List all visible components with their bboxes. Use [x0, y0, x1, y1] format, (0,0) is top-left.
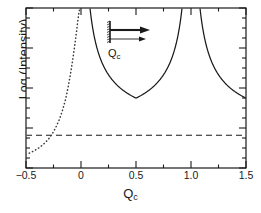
x-tick-label: 0	[78, 169, 84, 181]
x-tick-label: −0.5	[16, 169, 37, 181]
x-tick-label: 0.5	[129, 169, 144, 181]
x-axis-label-base: Q	[123, 186, 133, 201]
axes-frame	[26, 8, 246, 168]
inset-qc-sub: c	[117, 52, 121, 61]
inset-qc-label: Qc	[108, 47, 121, 61]
x-tick-labels: −0.500.51.01.5	[0, 169, 261, 185]
x-axis-label: Qc	[0, 186, 261, 202]
x-axis-label-sub: c	[133, 192, 138, 202]
x-tick-label: 1.0	[184, 169, 199, 181]
x-tick-label: 1.5	[239, 169, 254, 181]
figure-container: Log (Intensity)	[0, 0, 261, 213]
plot-frame	[26, 8, 246, 168]
inset-qc-base: Q	[108, 47, 117, 59]
